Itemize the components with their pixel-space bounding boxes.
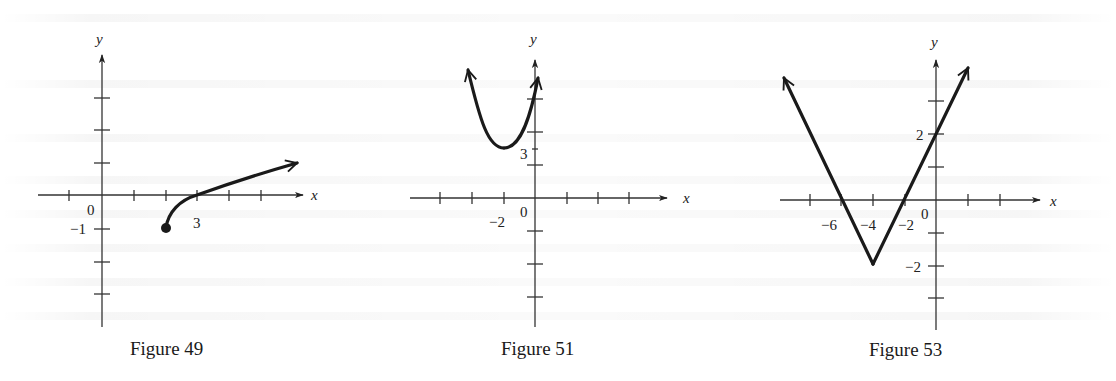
tick-label-y-neg1: −1 bbox=[70, 221, 86, 237]
tick-label-y-2: 2 bbox=[916, 127, 924, 143]
tick-label-x-neg2: −2 bbox=[489, 214, 505, 230]
x-axis-label: x bbox=[682, 190, 690, 206]
origin-label: 0 bbox=[921, 206, 929, 222]
y-axis-label: y bbox=[528, 31, 537, 47]
v-left-branch bbox=[784, 78, 873, 264]
tick-label-x-neg6: −6 bbox=[821, 217, 837, 233]
figure-51: y x 0 −2 3 Figure 51 bbox=[410, 31, 690, 359]
closed-endpoint-dot bbox=[161, 223, 171, 233]
figure-caption: Figure 53 bbox=[869, 339, 942, 360]
tick-label-y-3: 3 bbox=[520, 146, 528, 162]
figure-53: y x 0 −6 −4 −2 2 −2 Figure 53 bbox=[780, 34, 1057, 360]
tick-label-x-neg4: −4 bbox=[860, 217, 876, 233]
figure-49: y x 0 3 −1 Figure 49 bbox=[38, 31, 318, 359]
tick-label-x-3: 3 bbox=[193, 215, 201, 231]
figure-caption: Figure 51 bbox=[501, 338, 574, 359]
v-right-branch bbox=[873, 68, 968, 264]
parabola-right-arm bbox=[504, 78, 538, 148]
origin-label: 0 bbox=[520, 204, 528, 220]
figure-caption: Figure 49 bbox=[130, 338, 203, 359]
parabola-left-arm bbox=[468, 70, 504, 148]
figures-canvas: y x 0 3 −1 Figure 49 y x 0 bbox=[0, 0, 1116, 381]
x-axis-label: x bbox=[1049, 193, 1057, 209]
tick-label-x-neg2: −2 bbox=[898, 217, 914, 233]
origin-label: 0 bbox=[87, 202, 95, 218]
x-axis-label: x bbox=[310, 187, 318, 203]
tick-label-y-neg2: −2 bbox=[905, 259, 921, 275]
y-axis-label: y bbox=[929, 34, 938, 50]
y-axis-label: y bbox=[94, 31, 103, 47]
